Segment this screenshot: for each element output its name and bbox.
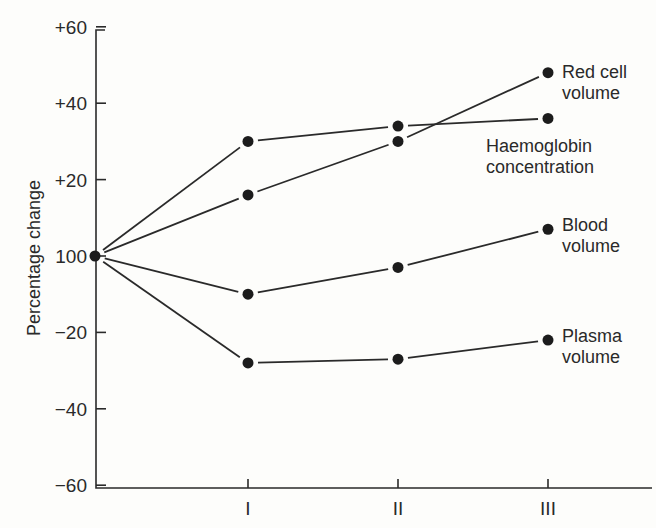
y-tick-label: +40 xyxy=(55,93,87,114)
origin-point xyxy=(90,251,101,262)
data-point xyxy=(543,335,554,346)
series-label: Red cell xyxy=(562,62,627,82)
data-point xyxy=(393,262,404,273)
y-tick-label: 100 xyxy=(55,246,87,267)
data-point xyxy=(543,224,554,235)
series-line-segment xyxy=(408,341,538,358)
y-axis-label: Percentage change xyxy=(24,180,44,336)
data-point xyxy=(243,289,254,300)
data-point xyxy=(393,121,404,132)
series-line-segment xyxy=(103,262,240,358)
series-line-segment xyxy=(258,269,388,292)
y-tick-label: −60 xyxy=(55,475,87,496)
line-chart: +60+40+20100−20−40−60 IIIIII Percentage … xyxy=(0,0,656,528)
series-label: volume xyxy=(562,347,620,367)
series-line-segment xyxy=(258,127,388,140)
series-blood-volume: Bloodvolume xyxy=(105,215,620,300)
data-point xyxy=(393,354,404,365)
series-haemoglobin-concentration: Haemoglobinconcentration xyxy=(103,113,594,250)
data-point xyxy=(243,189,254,200)
series-label: Haemoglobin xyxy=(486,136,592,156)
series-line-segment xyxy=(103,147,240,250)
x-tick-label: II xyxy=(393,498,404,519)
series-label: volume xyxy=(562,83,620,103)
series-line-segment xyxy=(408,119,538,126)
x-tick-label: III xyxy=(540,498,556,519)
y-tick-label: +20 xyxy=(55,170,87,191)
series-label: Plasma xyxy=(562,326,623,346)
y-tick-label: −20 xyxy=(55,322,87,343)
data-point xyxy=(243,136,254,147)
x-tick-label: I xyxy=(245,498,250,519)
series-line-segment xyxy=(257,145,388,192)
series-label: concentration xyxy=(486,157,594,177)
series-line-segment xyxy=(258,359,388,362)
x-axis-ticks: IIIIII xyxy=(245,479,556,519)
series-line-segment xyxy=(105,258,239,291)
y-tick-label: −40 xyxy=(55,399,87,420)
data-series: Red cellvolumeHaemoglobinconcentrationBl… xyxy=(103,62,627,368)
data-point xyxy=(543,67,554,78)
y-tick-label: +60 xyxy=(55,17,87,38)
series-line-segment xyxy=(407,77,539,137)
data-point xyxy=(393,136,404,147)
series-line-segment xyxy=(408,232,539,265)
series-label: Blood xyxy=(562,215,608,235)
data-point xyxy=(243,357,254,368)
data-point xyxy=(543,113,554,124)
series-label: volume xyxy=(562,236,620,256)
series-line-segment xyxy=(104,199,238,253)
